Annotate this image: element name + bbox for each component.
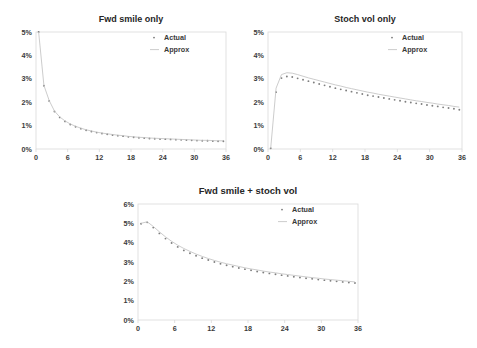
x-axis-tick-label: 24 (159, 153, 167, 162)
data-point (334, 87, 336, 89)
y-axis-tick-label: 1% (22, 121, 33, 130)
y-axis-tick-label: 3% (124, 258, 135, 267)
x-axis-tick-label: 6 (66, 153, 70, 162)
x-axis-tick-label: 30 (190, 153, 198, 162)
data-point (318, 83, 320, 85)
data-point (317, 279, 319, 281)
data-point (404, 101, 406, 103)
data-point (183, 249, 185, 251)
data-point (340, 88, 342, 90)
x-axis-tick-label: 30 (317, 324, 325, 333)
legend-label-approx: Approx (164, 45, 189, 54)
series-points-actual (270, 76, 461, 150)
data-point (372, 95, 374, 97)
series-line-approx (39, 32, 224, 141)
data-point (421, 103, 423, 105)
data-point (195, 255, 197, 257)
series-points-actual (38, 31, 225, 142)
legend-label-approx: Approx (402, 45, 427, 54)
data-point (302, 79, 304, 81)
data-point (431, 105, 433, 107)
y-axis-tick-label: 4% (254, 51, 265, 60)
x-axis-tick-label: 36 (458, 153, 466, 162)
chart-title: Stoch vol only (334, 14, 396, 24)
data-point (291, 76, 293, 78)
data-point (426, 104, 428, 106)
x-axis-tick-label: 36 (222, 153, 230, 162)
data-point (299, 277, 301, 279)
data-point (220, 263, 222, 265)
x-axis-tick-label: 36 (354, 324, 362, 333)
x-axis-tick-label: 12 (95, 153, 103, 162)
y-axis-tick-label: 5% (124, 219, 135, 228)
data-point (458, 109, 460, 111)
data-point (453, 108, 455, 110)
data-point (305, 277, 307, 279)
legend-actual-marker (281, 209, 283, 211)
legend-actual-marker (391, 37, 393, 39)
y-axis-tick-label: 0% (124, 316, 135, 325)
y-axis-tick-label: 3% (254, 74, 265, 83)
chart-panel-fwd-smile-plus-stoch-vol: 0%1%2%3%4%5%6%061218243036Fwd smile + st… (108, 176, 370, 344)
chart-svg-fwd-smile-plus-stoch-vol: 0%1%2%3%4%5%6%061218243036Fwd smile + st… (108, 176, 370, 344)
data-point (313, 82, 315, 84)
y-axis-tick-label: 1% (124, 296, 135, 305)
data-point (345, 90, 347, 92)
series-points-actual (140, 221, 356, 284)
data-point (207, 259, 209, 261)
x-axis-tick-label: 0 (266, 153, 270, 162)
data-point (244, 268, 246, 270)
data-point (189, 252, 191, 254)
legend-label-actual: Actual (292, 205, 314, 214)
data-point (383, 97, 385, 99)
x-axis-tick-label: 24 (281, 324, 289, 333)
y-axis-tick-label: 5% (254, 28, 265, 37)
data-point (281, 274, 283, 276)
data-point (410, 101, 412, 103)
chart-legend: ActualApprox (388, 33, 427, 54)
x-axis-tick-label: 18 (244, 324, 252, 333)
chart-title: Fwd smile + stoch vol (199, 185, 297, 196)
y-axis-tick-label: 4% (124, 238, 135, 247)
data-point (293, 276, 295, 278)
y-axis-tick-label: 5% (22, 28, 33, 37)
chart-title: Fwd smile only (99, 14, 164, 24)
y-axis-tick-label: 6% (124, 200, 135, 209)
x-axis-tick-label: 18 (361, 153, 369, 162)
data-point (324, 84, 326, 86)
data-point (415, 102, 417, 104)
y-axis-tick-label: 3% (22, 74, 33, 83)
data-point (177, 246, 179, 248)
data-point (268, 272, 270, 274)
data-point (201, 257, 203, 259)
series-line-approx (271, 73, 460, 149)
legend-actual-marker (153, 37, 155, 39)
x-axis-tick-label: 12 (207, 324, 215, 333)
y-axis-tick-label: 2% (124, 277, 135, 286)
data-point (287, 275, 289, 277)
y-axis-tick-label: 2% (254, 98, 265, 107)
x-axis-tick-label: 30 (426, 153, 434, 162)
y-axis-tick-label: 0% (254, 145, 265, 154)
chart-svg-fwd-smile-only: 0%1%2%3%4%5%061218243036Fwd smile onlyAc… (8, 6, 234, 171)
x-axis-tick-label: 12 (329, 153, 337, 162)
data-point (354, 282, 356, 284)
x-axis-tick-label: 0 (136, 324, 140, 333)
data-point (226, 264, 228, 266)
data-point (297, 77, 299, 79)
data-point (286, 76, 288, 78)
chart-panel-stoch-vol-only: 0%1%2%3%4%5%061218243036Stoch vol onlyAc… (240, 6, 472, 171)
data-point (256, 271, 258, 273)
data-point (399, 100, 401, 102)
chart-panel-fwd-smile-only: 0%1%2%3%4%5%061218243036Fwd smile onlyAc… (8, 6, 234, 171)
data-point (356, 92, 358, 94)
data-point (213, 261, 215, 263)
data-point (361, 93, 363, 95)
plot-area-border (36, 32, 226, 149)
y-axis-tick-label: 2% (22, 98, 33, 107)
data-point (351, 91, 353, 93)
x-axis-tick-label: 18 (127, 153, 135, 162)
data-point (275, 273, 277, 275)
chart-legend: ActualApprox (278, 205, 317, 226)
data-point (367, 94, 369, 96)
